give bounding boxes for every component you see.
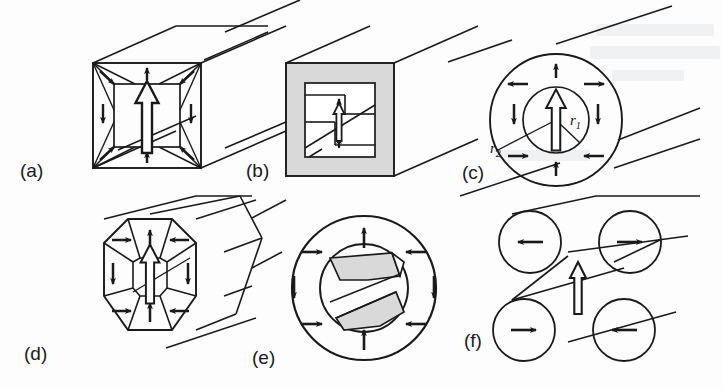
panel-e-graphic bbox=[252, 200, 436, 360]
panel-a-graphic bbox=[93, 26, 286, 168]
radius-line-r2 bbox=[496, 120, 556, 151]
panel-f-graphic bbox=[493, 196, 700, 361]
figure-vector-canvas bbox=[0, 0, 723, 389]
panel-label-c: (c) bbox=[462, 162, 484, 184]
panel-label-a: (a) bbox=[20, 160, 43, 182]
radius-r2-subscript: 2 bbox=[496, 148, 501, 159]
panel-label-f: (f) bbox=[464, 330, 482, 352]
panel-d-graphic bbox=[104, 196, 262, 348]
magnetic-domain-figure: (a) (b) (c) (d) (e) (f) r1 r2 bbox=[0, 0, 723, 389]
panel-c-radius-lines bbox=[496, 120, 580, 151]
panel-e-perspective-lines bbox=[252, 200, 286, 268]
panel-a-core-arrow bbox=[136, 81, 159, 153]
panel-label-d: (d) bbox=[24, 343, 47, 365]
panel-d-core-arrow bbox=[141, 244, 160, 303]
bleed-through-artifacts bbox=[494, 24, 720, 161]
panel-label-b: (b) bbox=[246, 160, 269, 182]
radius-r1-subscript: 1 bbox=[576, 120, 581, 131]
panel-c-core-arrow bbox=[546, 89, 566, 150]
panel-f-core-arrow bbox=[570, 262, 586, 314]
panel-f-perspective-lines bbox=[512, 196, 700, 342]
radius-label-r1: r1 bbox=[570, 112, 581, 131]
panel-e-shaded-domains bbox=[330, 253, 404, 330]
panel-a-wire-tail bbox=[204, 32, 268, 60]
panel-label-e: (e) bbox=[252, 347, 275, 369]
radius-label-r2: r2 bbox=[490, 140, 501, 159]
